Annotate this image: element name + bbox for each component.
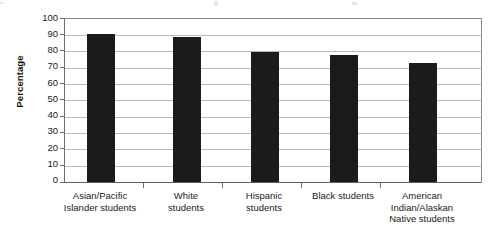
bar-white-students — [173, 37, 201, 182]
x-label-line: Native students — [374, 213, 470, 225]
x-label-asian-pacific-islander-students: Asian/Pacific Islander students — [52, 190, 148, 213]
y-tick-label-40: 40 — [14, 110, 58, 120]
y-tick-label-80: 80 — [14, 45, 58, 55]
x-label-line: Indian/Alaskan — [374, 202, 470, 214]
gridline-90 — [65, 35, 481, 36]
y-tick-label-30: 30 — [14, 126, 58, 136]
plot-area — [64, 18, 482, 183]
x-label-line: American — [374, 190, 470, 202]
y-tick-label-0: 0 — [14, 175, 58, 185]
y-tick-label-100: 100 — [14, 13, 58, 23]
x-tick-mark — [301, 183, 302, 188]
gridline-100 — [65, 19, 481, 20]
bar-asian-pacific-islander-students — [87, 34, 115, 182]
x-label-line: students — [216, 202, 312, 214]
x-tick-mark — [222, 183, 223, 188]
bar-hispanic-students — [251, 52, 279, 182]
x-tick-mark — [143, 183, 144, 188]
scan-artifact — [352, 2, 357, 5]
x-tick-mark — [380, 183, 381, 188]
scan-artifact — [214, 1, 218, 6]
y-tick-label-50: 50 — [14, 94, 58, 104]
y-tick-label-20: 20 — [14, 143, 58, 153]
bar-american-indian-alaskan-native-students — [409, 63, 437, 182]
y-tick-label-60: 60 — [14, 78, 58, 88]
bar-black-students — [330, 55, 358, 182]
y-tick-label-70: 70 — [14, 61, 58, 71]
scan-artifact — [0, 2, 3, 4]
x-label-line: Asian/Pacific — [52, 190, 148, 202]
y-tick-label-90: 90 — [14, 29, 58, 39]
x-label-american-indian-alaskan-native-students: American Indian/Alaskan Native students — [374, 190, 470, 225]
y-tick-label-10: 10 — [14, 159, 58, 169]
gridline-0-baseline — [65, 182, 481, 183]
bar-chart: Percentage 100 90 80 70 60 50 40 30 20 1… — [0, 0, 492, 230]
x-label-line: Islander students — [52, 202, 148, 214]
